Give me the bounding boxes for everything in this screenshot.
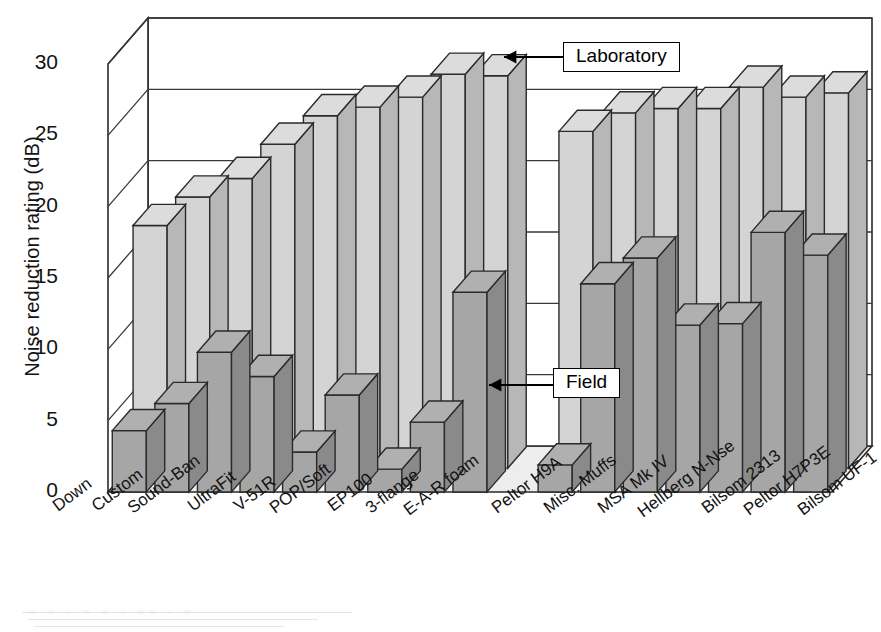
laboratory-callout: Laboratory <box>563 42 680 72</box>
scan-artifact-line <box>34 626 284 627</box>
scan-artifact-line <box>28 619 318 620</box>
field-callout: Field <box>553 368 620 398</box>
scan-artifact-text: ~ ~ - ~ ~ - ~~ - ~ <box>28 604 448 618</box>
scan-artifact-line <box>22 612 352 613</box>
